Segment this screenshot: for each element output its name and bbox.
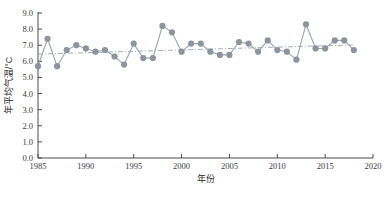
data-point-marker: [303, 21, 309, 27]
data-point-marker: [111, 53, 117, 59]
y-tick-label: 9.0: [22, 8, 33, 18]
y-tick-label: 7.0: [22, 40, 33, 50]
data-point-marker: [226, 52, 232, 58]
x-tick-label: 2005: [221, 161, 238, 171]
x-axis-title: 年份: [197, 173, 215, 184]
data-point-marker: [140, 55, 146, 61]
data-point-marker: [64, 47, 70, 53]
data-point-marker: [35, 63, 41, 69]
x-tick-label: 2010: [269, 161, 286, 171]
x-tick-label: 1985: [30, 161, 47, 171]
data-point-marker: [284, 49, 290, 55]
series-line-temperature: [38, 24, 354, 66]
x-tick-label: 2015: [317, 161, 334, 171]
temperature-line-chart: 0.01.02.03.04.05.06.07.08.09.01985199019…: [0, 0, 387, 204]
data-point-marker: [265, 37, 271, 43]
data-point-marker: [178, 49, 184, 55]
data-point-marker: [332, 37, 338, 43]
data-point-marker: [217, 52, 223, 58]
data-point-marker: [169, 29, 175, 35]
data-point-marker: [274, 47, 280, 53]
data-point-marker: [131, 41, 137, 47]
x-tick-label: 2020: [365, 161, 382, 171]
data-point-marker: [322, 45, 328, 51]
data-point-marker: [198, 41, 204, 47]
data-point-marker: [159, 23, 165, 29]
y-tick-label: 4.0: [22, 89, 33, 99]
y-tick-label: 2.0: [22, 121, 33, 131]
data-point-marker: [255, 49, 261, 55]
data-point-marker: [207, 49, 213, 55]
data-point-marker: [312, 45, 318, 51]
data-point-marker: [102, 47, 108, 53]
x-tick-label: 1990: [77, 161, 94, 171]
y-tick-label: 1.0: [22, 137, 33, 147]
data-point-marker: [92, 49, 98, 55]
data-point-marker: [54, 63, 60, 69]
data-point-marker: [83, 45, 89, 51]
data-point-marker: [73, 42, 79, 48]
chart-canvas: 0.01.02.03.04.05.06.07.08.09.01985199019…: [0, 0, 387, 204]
data-point-marker: [150, 55, 156, 61]
y-tick-label: 8.0: [22, 24, 33, 34]
y-tick-label: 5.0: [22, 72, 33, 82]
data-point-marker: [341, 37, 347, 43]
data-point-marker: [245, 41, 251, 47]
data-point-marker: [293, 57, 299, 63]
data-point-marker: [121, 61, 127, 67]
x-tick-label: 2000: [173, 161, 190, 171]
y-tick-label: 6.0: [22, 56, 33, 66]
data-point-marker: [44, 36, 50, 42]
data-point-marker: [351, 47, 357, 53]
x-tick-label: 1995: [125, 161, 142, 171]
data-point-marker: [236, 39, 242, 45]
y-axis-title: 年平均气温/°C: [3, 56, 14, 114]
y-tick-label: 3.0: [22, 105, 33, 115]
data-point-marker: [188, 41, 194, 47]
